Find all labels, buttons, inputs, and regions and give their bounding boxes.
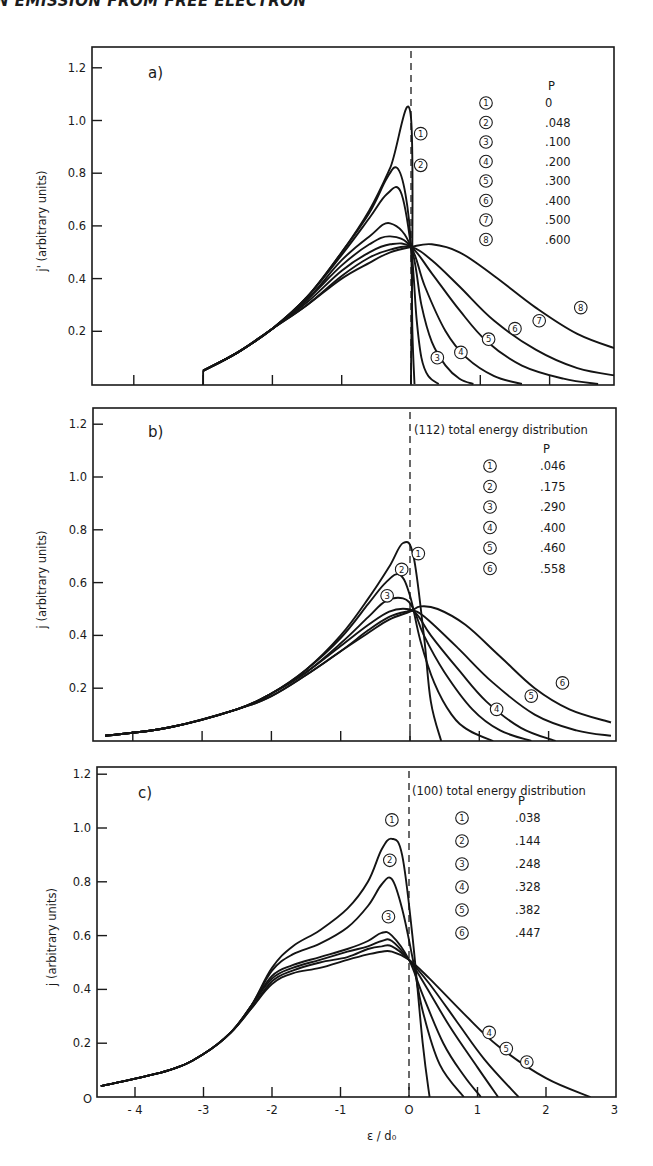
svg-text:1: 1 (418, 129, 423, 139)
legend-marker-2: 2 (456, 835, 469, 848)
svg-text:4: 4 (483, 157, 488, 167)
curve-label-4: 4 (490, 703, 503, 716)
svg-text:1: 1 (459, 813, 464, 823)
legend-value-6: .400 (545, 194, 571, 208)
legend-value-4: .400 (540, 521, 566, 535)
legend-value-6: .447 (515, 926, 541, 940)
svg-text:5: 5 (459, 905, 464, 915)
y-axis-label: j (arbitrary units) (45, 888, 59, 987)
panel-b-chart: 0.20.40.60.81.01.2j (arbitrary units)b)(… (35, 408, 616, 741)
svg-text:6: 6 (524, 1057, 529, 1067)
y-tick-label: 0.4 (69, 628, 87, 642)
y-tick-label: 1.0 (73, 821, 91, 835)
y-tick-label: 0.2 (69, 681, 87, 695)
svg-text:6: 6 (487, 564, 492, 574)
svg-text:3: 3 (459, 859, 464, 869)
curve-label-8: 8 (574, 301, 587, 314)
series-curve-3 (105, 598, 531, 741)
legend-title: P (518, 794, 525, 808)
legend-marker-5: 5 (480, 175, 493, 188)
series-curve-6 (203, 243, 598, 384)
curve-label-4: 4 (483, 1026, 496, 1039)
x-tick-label: -3 (198, 1103, 209, 1117)
y-tick-label: 0.8 (68, 166, 86, 180)
legend-title: P (543, 442, 550, 456)
svg-text:6: 6 (459, 928, 464, 938)
legend-marker-1: 1 (480, 97, 493, 110)
curve-label-5: 5 (525, 690, 538, 703)
legend-value-3: .100 (545, 135, 571, 149)
svg-text:1: 1 (416, 549, 421, 559)
legend-value-4: .200 (545, 155, 571, 169)
series-curve-5 (105, 611, 611, 736)
y-axis-label: j (arbitrary units) (35, 531, 49, 630)
legend-value-2: .175 (540, 480, 566, 494)
y-tick-label: 0.4 (73, 982, 91, 996)
x-axis-label: ε / d₀ (367, 1129, 397, 1143)
curve-label-1: 1 (414, 127, 427, 140)
legend-marker-6: 6 (456, 927, 469, 940)
svg-text:1: 1 (483, 98, 488, 108)
curve-label-5: 5 (482, 333, 495, 346)
svg-text:2: 2 (459, 836, 464, 846)
curves (105, 542, 611, 741)
y-tick-label: 0.2 (73, 1036, 91, 1050)
legend-marker-4: 4 (480, 155, 493, 168)
legend-value-8: .600 (545, 233, 571, 247)
svg-text:6: 6 (560, 678, 565, 688)
series-curve-6 (105, 606, 611, 736)
svg-text:1: 1 (389, 815, 394, 825)
svg-text:5: 5 (504, 1044, 509, 1054)
figure-canvas: 0.20.40.60.81.01.2j' (arbitrary units)a)… (0, 0, 653, 1166)
curve-label-3: 3 (381, 590, 394, 603)
legend-marker-2: 2 (480, 116, 493, 129)
curve-label-3: 3 (382, 910, 395, 923)
x-tick-label: - 4 (127, 1103, 142, 1117)
legend-value-5: .460 (540, 541, 566, 555)
series-curve-1 (203, 107, 413, 384)
panel-title: (112) total energy distribution (414, 423, 588, 437)
legend-marker-5: 5 (484, 542, 497, 555)
legend-marker-6: 6 (484, 562, 497, 575)
y-tick-label: 0.8 (69, 523, 87, 537)
svg-text:4: 4 (459, 882, 464, 892)
svg-text:2: 2 (483, 118, 488, 128)
svg-text:3: 3 (384, 591, 389, 601)
svg-text:8: 8 (578, 303, 583, 313)
legend-marker-3: 3 (484, 501, 497, 514)
legend-value-7: .500 (545, 213, 571, 227)
y-tick-label: 0.8 (73, 875, 91, 889)
legend-value-5: .300 (545, 174, 571, 188)
legend-value-3: .248 (515, 857, 541, 871)
legend-value-6: .558 (540, 562, 566, 576)
svg-text:3: 3 (386, 912, 391, 922)
svg-text:3: 3 (483, 137, 488, 147)
curve-label-6: 6 (556, 677, 569, 690)
svg-text:5: 5 (487, 543, 492, 553)
x-tick-label: -1 (335, 1103, 346, 1117)
legend-marker-4: 4 (456, 881, 469, 894)
svg-text:2: 2 (387, 855, 392, 865)
curve-label-3: 3 (431, 351, 444, 364)
svg-text:6: 6 (512, 324, 517, 334)
y-tick-label: 0.6 (68, 219, 86, 233)
y-tick-label: 0.4 (68, 272, 86, 286)
svg-text:2: 2 (487, 482, 492, 492)
svg-text:5: 5 (483, 176, 488, 186)
panel-a-chart: 0.20.40.60.81.01.2j' (arbitrary units)a)… (35, 47, 619, 385)
legend-marker-8: 8 (480, 233, 493, 246)
series-curve-1 (105, 542, 441, 741)
svg-text:4: 4 (486, 1028, 491, 1038)
legend: P102.0483.1004.2005.3006.4007.5008.600 (480, 79, 571, 247)
origin-label: O (83, 1092, 92, 1106)
svg-text:3: 3 (435, 353, 440, 363)
legend-value-2: .048 (545, 116, 571, 130)
curves (101, 839, 591, 1097)
panel-c-chart: 0.20.40.60.81.01.2- 4-3-2-1O123Oj (arbit… (45, 767, 618, 1143)
y-tick-label: 0.6 (73, 929, 91, 943)
svg-text:5: 5 (529, 691, 534, 701)
svg-text:7: 7 (483, 215, 488, 225)
curve-label-4: 4 (455, 346, 468, 359)
legend-value-4: .328 (515, 880, 541, 894)
legend-marker-6: 6 (480, 194, 493, 207)
